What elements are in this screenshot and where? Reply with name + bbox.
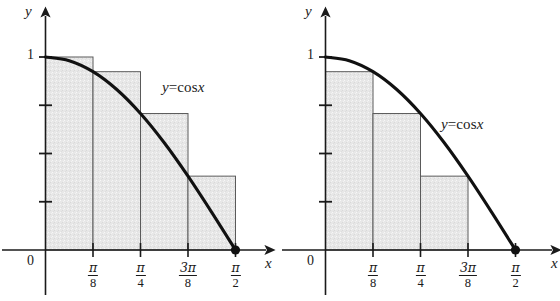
curve-eq-function: cos [456, 116, 477, 132]
riemann-rectangle [326, 72, 374, 250]
fraction-numerator: π [368, 262, 378, 276]
fraction-denominator: 8 [368, 276, 378, 289]
riemann-rectangle [141, 114, 189, 250]
curve-equation-label: y=cosx [441, 117, 483, 132]
y-tick-label-1: 1 [27, 48, 34, 62]
x-tick-label-pi-8: π 8 [368, 262, 378, 290]
x-tick-label-pi-4: π 4 [415, 262, 425, 290]
fraction-denominator: 8 [179, 276, 197, 289]
y-tick-label-1: 1 [307, 48, 314, 62]
fraction-denominator: 8 [88, 276, 98, 289]
fraction-denominator: 4 [415, 276, 425, 289]
riemann-rectangle [93, 72, 141, 250]
fraction-numerator: 3π [179, 262, 197, 276]
right-plot-canvas [280, 0, 560, 301]
riemann-rectangles [326, 72, 516, 250]
curve-eq-argument: x [198, 79, 205, 95]
x-tick-label-3pi-8: 3π 8 [179, 262, 197, 290]
x-axis-label: x [265, 256, 272, 271]
x-tick-label-3pi-8: 3π 8 [459, 262, 477, 290]
riemann-rectangles [46, 57, 236, 250]
left-plot-panel: y x 0 1 y=cosx π 8 π 4 3π 8 π 2 [0, 0, 280, 301]
y-axis-label: y [25, 4, 32, 19]
fraction-denominator: 2 [510, 276, 520, 289]
curve-eq-argument: x [477, 116, 484, 132]
left-plot-canvas [0, 0, 280, 301]
fraction-numerator: 3π [459, 262, 477, 276]
x-tick-label-pi-8: π 8 [88, 262, 98, 290]
fraction-numerator: π [88, 262, 98, 276]
curve-eq-lhs: y [441, 116, 448, 132]
x-tick-label-pi-2: π 2 [510, 262, 520, 290]
origin-label: 0 [27, 254, 34, 268]
fraction-denominator: 2 [230, 276, 240, 289]
curve-eq-operator: = [169, 79, 177, 95]
fraction-numerator: π [415, 262, 425, 276]
curve-equation-label: y=cosx [162, 80, 204, 95]
right-plot-panel: y x 0 1 y=cosx π 8 π 4 3π 8 π 2 [280, 0, 560, 301]
curve-endpoint-dot [511, 245, 520, 254]
curve-eq-function: cos [177, 79, 198, 95]
riemann-rectangle [421, 176, 469, 250]
riemann-rectangle [373, 114, 421, 250]
x-tick-label-pi-2: π 2 [230, 262, 240, 290]
fraction-numerator: π [135, 262, 145, 276]
fraction-numerator: π [510, 262, 520, 276]
x-axis-label: x [551, 256, 558, 271]
origin-label: 0 [307, 254, 314, 268]
fraction-numerator: π [230, 262, 240, 276]
fraction-denominator: 4 [135, 276, 145, 289]
curve-eq-operator: = [448, 116, 456, 132]
curve-endpoint-dot [231, 245, 240, 254]
curve-eq-lhs: y [162, 79, 169, 95]
riemann-rectangle [46, 57, 94, 250]
riemann-sum-figure: y x 0 1 y=cosx π 8 π 4 3π 8 π 2 [0, 0, 560, 301]
y-axis-label: y [305, 4, 312, 19]
fraction-denominator: 8 [459, 276, 477, 289]
x-tick-label-pi-4: π 4 [135, 262, 145, 290]
